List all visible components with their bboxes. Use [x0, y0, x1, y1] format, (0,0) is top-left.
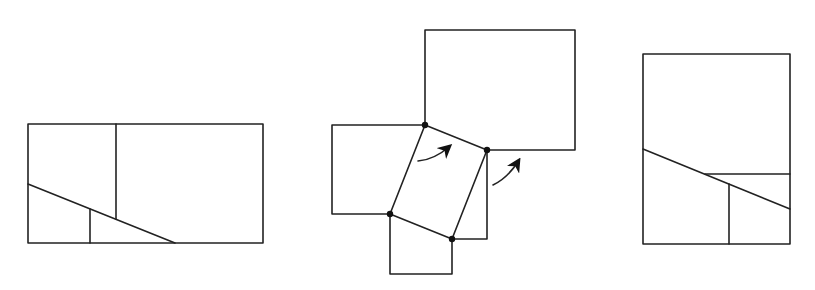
- middle-squares-figure: [332, 30, 575, 274]
- outer-rectangle: [28, 124, 263, 243]
- diagonal-cut: [643, 149, 790, 209]
- vertex-dot: [422, 122, 428, 128]
- bottom-square: [390, 214, 452, 274]
- central-parallelogram: [390, 125, 487, 239]
- left-square: [332, 125, 425, 214]
- rotation-arrow-icon: [418, 146, 450, 161]
- vertex-dot: [387, 211, 393, 217]
- vertex-dot: [449, 236, 455, 242]
- diagonal-cut: [28, 184, 175, 243]
- vertex-dot: [484, 147, 490, 153]
- large-square: [425, 30, 575, 150]
- left-rectangle-figure: [28, 124, 263, 243]
- rotation-arrow-icon: [493, 160, 519, 185]
- dissection-diagram: [0, 0, 815, 290]
- outer-rectangle: [643, 54, 790, 244]
- right-rectangle-figure: [643, 54, 790, 244]
